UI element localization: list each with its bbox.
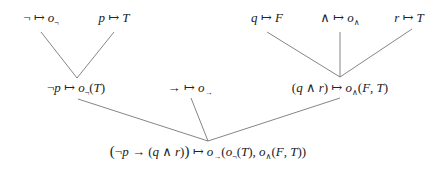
evaluation-tree-diagram: ¬ ↦ o¬ p ↦ T q ↦ F ∧ ↦ o∧ r ↦ T ¬p ↦ o¬(…	[0, 0, 446, 172]
node-conjunction-operator: ∧ ↦ o∧	[320, 10, 359, 31]
node-negation-operator: ¬ ↦ o¬	[23, 10, 59, 31]
edge-r-to-q-and-r	[340, 29, 412, 77]
edge-q-to-q-and-r	[267, 32, 340, 77]
edge-neg-op-to-neg-p	[41, 32, 77, 78]
edge-p-to-neg-p	[77, 32, 114, 78]
edge-imp-op-to-root	[191, 98, 208, 141]
node-neg-p: ¬p ↦ o¬(T)	[47, 80, 105, 101]
edge-q-and-r-to-root	[208, 98, 340, 141]
node-implication-operator: → ↦ o→	[168, 80, 213, 101]
node-r-value: r ↦ T	[394, 10, 424, 26]
node-root-formula: (¬p → (q ∧ r)) ↦ o→(o¬(T), o∧(F, T))	[110, 143, 306, 165]
node-p-value: p ↦ T	[98, 10, 129, 26]
edge-neg-p-to-root	[78, 99, 208, 141]
node-q-and-r: (q ∧ r) ↦ o∧(F, T)	[292, 80, 388, 101]
node-q-value: q ↦ F	[251, 10, 283, 26]
